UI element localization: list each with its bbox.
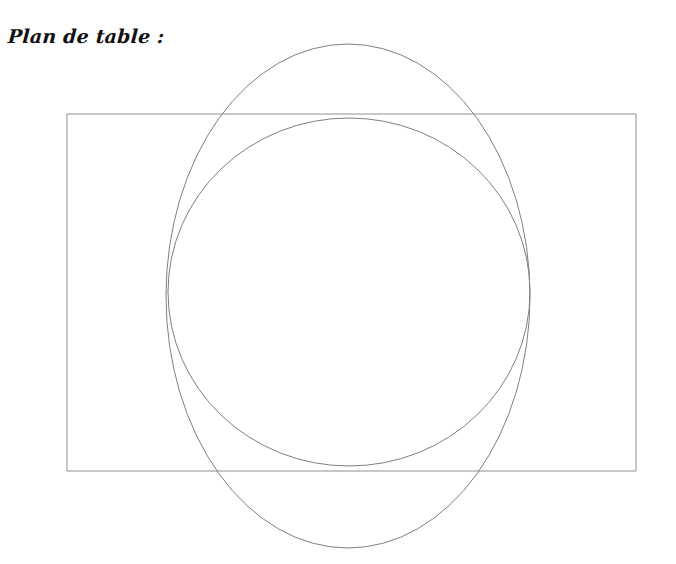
- outer-ellipse: [166, 44, 530, 548]
- seating-plan-page: Plan de table :: [0, 0, 676, 564]
- inner-circle: [168, 118, 530, 466]
- seating-plan-drawing: [0, 0, 676, 564]
- table-rectangle: [67, 114, 636, 471]
